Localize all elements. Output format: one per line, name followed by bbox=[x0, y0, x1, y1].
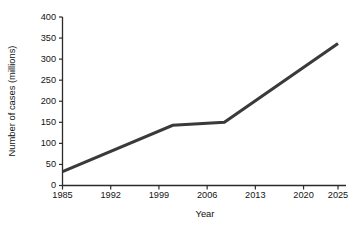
y-axis-title: Number of cases (millions) bbox=[6, 46, 17, 157]
chart-container: 050100150200250300350400 198519921999200… bbox=[0, 0, 361, 225]
x-tick-label: 1992 bbox=[100, 190, 120, 200]
y-tick-label: 50 bbox=[46, 159, 56, 169]
x-tick-label: 2006 bbox=[197, 190, 217, 200]
y-tick-label: 250 bbox=[41, 75, 56, 85]
x-axis-title: Year bbox=[196, 208, 215, 219]
y-tick-label: 200 bbox=[41, 96, 56, 106]
x-tick-group: 1985199219992006201320202025 bbox=[52, 186, 348, 201]
x-tick-label: 1999 bbox=[149, 190, 169, 200]
x-axis-group: 1985199219992006201320202025 bbox=[52, 186, 348, 201]
y-axis-group: 050100150200250300350400 bbox=[41, 12, 63, 191]
y-tick-label: 400 bbox=[41, 12, 56, 22]
data-line-number-of-cases bbox=[63, 44, 339, 172]
x-tick-label: 1985 bbox=[52, 190, 72, 200]
x-tick-label: 2013 bbox=[245, 190, 265, 200]
y-tick-label: 100 bbox=[41, 138, 56, 148]
y-tick-label: 150 bbox=[41, 117, 56, 127]
y-tick-label: 300 bbox=[41, 54, 56, 64]
y-tick-label: 350 bbox=[41, 33, 56, 43]
y-tick-group: 050100150200250300350400 bbox=[41, 12, 63, 191]
line-chart: 050100150200250300350400 198519921999200… bbox=[0, 0, 361, 225]
series-group bbox=[63, 44, 339, 172]
x-tick-label: 2020 bbox=[293, 190, 313, 200]
y-tick-label: 0 bbox=[51, 180, 56, 190]
x-tick-label: 2025 bbox=[328, 190, 348, 200]
